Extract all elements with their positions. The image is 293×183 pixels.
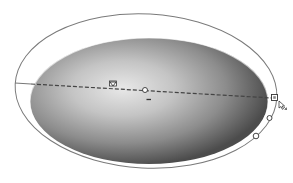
gradient-canvas[interactable] [0,0,293,183]
aspect-ratio-handle[interactable] [267,116,272,121]
resize-arrow-cursor-icon [279,101,287,110]
rotate-handle[interactable] [253,133,259,139]
color-stop-marker[interactable] [110,81,117,86]
gradient-bar-outside[interactable] [15,83,31,84]
end-handle-inner [273,96,276,99]
gradient-origin-handle[interactable] [143,88,148,93]
